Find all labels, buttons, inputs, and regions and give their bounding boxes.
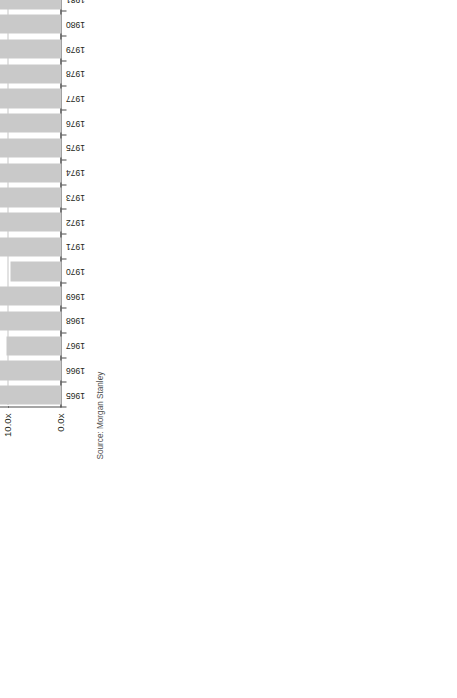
category-label-1978: 1978 — [65, 69, 84, 79]
category-tick — [61, 332, 66, 333]
bar-group-1967[interactable]: 10.3x1967 — [0, 333, 61, 358]
category-tick — [61, 11, 66, 12]
category-label-1965: 1965 — [65, 390, 84, 400]
category-label-1971: 1971 — [65, 242, 84, 252]
category-label-1968: 1968 — [65, 316, 84, 326]
bar-group-1972[interactable]: 25.5x1972 — [0, 210, 61, 235]
category-tick — [61, 135, 66, 136]
bar-group-1976[interactable]: 46.3x1976 — [0, 111, 61, 136]
category-label-1976: 1976 — [65, 118, 84, 128]
source-note: Source: Morgan Stanley — [95, 372, 104, 460]
y-axis-tick-label: 10.0x — [1, 414, 12, 437]
bar-group-1970[interactable]: 9.6x1970 — [0, 259, 61, 284]
bar[interactable] — [0, 212, 61, 231]
bar[interactable] — [0, 138, 61, 157]
category-label-1979: 1979 — [65, 44, 84, 54]
bar-group-1968[interactable]: 11.9x1968 — [0, 309, 61, 334]
bar-group-1980[interactable]: 20.6x1980 — [0, 12, 61, 37]
bar-group-1979[interactable]: 23.3x1979 — [0, 37, 61, 62]
bar-group-1978[interactable]: 34.3x1978 — [0, 61, 61, 86]
category-tick — [61, 407, 66, 408]
category-label-1967: 1967 — [65, 341, 84, 351]
bar[interactable] — [0, 237, 61, 256]
bar-series: 15.0x196514.3x196610.3x196711.9x196813.6… — [0, 0, 61, 408]
bar[interactable] — [10, 262, 61, 281]
category-label-1974: 1974 — [65, 168, 84, 178]
bar-group-1969[interactable]: 13.6x1969 — [0, 284, 61, 309]
category-label-1969: 1969 — [65, 291, 84, 301]
bar-group-1971[interactable]: 14.9x1971 — [0, 234, 61, 259]
bar[interactable] — [0, 361, 61, 380]
category-label-1970: 1970 — [65, 267, 84, 277]
bar[interactable] — [0, 287, 61, 306]
category-label-1975: 1975 — [65, 143, 84, 153]
bar[interactable] — [0, 386, 61, 405]
plot-area: 70.0x60.0x50.0x40.0x30.0x20.0x10.0x0.0x … — [0, 0, 61, 408]
bar[interactable] — [0, 64, 61, 83]
bar-group-1973[interactable]: 13.3x1973 — [0, 185, 61, 210]
category-tick — [61, 308, 66, 309]
bar-group-1975[interactable]: 27.0x1975 — [0, 136, 61, 161]
category-tick — [61, 159, 66, 160]
chart-canvas: TOPIX Index Price-to-Earnings Ratios Pri… — [0, 0, 108, 470]
category-label-1977: 1977 — [65, 94, 84, 104]
bar[interactable] — [0, 15, 61, 34]
bar-group-1977[interactable]: 24.2x1977 — [0, 86, 61, 111]
rotated-chart-stage: TOPIX Index Price-to-Earnings Ratios Pri… — [0, 0, 108, 470]
category-label-1981: 1981 — [65, 0, 84, 5]
bar[interactable] — [6, 336, 61, 355]
bar[interactable] — [0, 114, 61, 133]
category-label-1966: 1966 — [65, 365, 84, 375]
category-label-1973: 1973 — [65, 192, 84, 202]
category-tick — [61, 357, 66, 358]
category-tick — [61, 258, 66, 259]
category-tick — [61, 36, 66, 37]
category-tick — [61, 283, 66, 284]
bar[interactable] — [0, 39, 61, 58]
category-label-1972: 1972 — [65, 217, 84, 227]
category-tick — [61, 184, 66, 185]
bar[interactable] — [0, 89, 61, 108]
bar[interactable] — [0, 0, 61, 9]
bar[interactable] — [0, 188, 61, 207]
bar-group-1974[interactable]: 13.0x1974 — [0, 160, 61, 185]
bar-group-1966[interactable]: 14.3x1966 — [0, 358, 61, 383]
category-tick — [61, 110, 66, 111]
category-label-1980: 1980 — [65, 19, 84, 29]
y-axis-tick-label: 0.0x — [54, 414, 65, 432]
category-tick — [61, 382, 66, 383]
bar[interactable] — [0, 163, 61, 182]
bar-group-1965[interactable]: 15.0x1965 — [0, 383, 61, 408]
category-tick — [61, 85, 66, 86]
category-tick — [61, 209, 66, 210]
bar-group-1981[interactable]: 21.1x1981 — [0, 0, 61, 12]
category-tick — [61, 233, 66, 234]
bar[interactable] — [0, 311, 61, 330]
category-tick — [61, 60, 66, 61]
